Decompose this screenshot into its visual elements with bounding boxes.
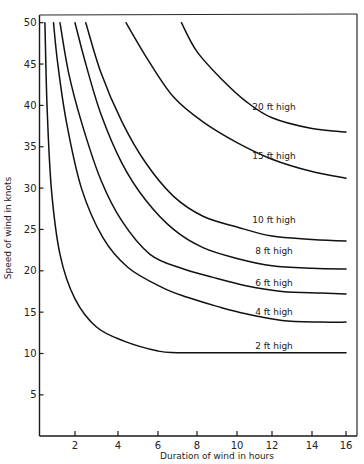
x-axis-title: Duration of wind in hours [160, 451, 274, 461]
y-tick-label: 45 [24, 59, 37, 70]
x-tick-label: 2 [72, 440, 78, 451]
x-tick-label: 6 [155, 440, 161, 451]
curve-label: 2 ft high [255, 341, 293, 351]
x-tick-label: 8 [194, 440, 200, 451]
curve-label: 20 ft high [252, 102, 295, 112]
curve-label: 4 ft high [255, 307, 293, 317]
y-tick-label: 40 [24, 100, 37, 111]
curve-labels: 20 ft high15 ft high10 ft high8 ft high6… [252, 102, 295, 352]
x-tick-label: 16 [340, 440, 353, 451]
y-tick-label: 50 [24, 17, 37, 28]
curve-20-ft-high [181, 23, 346, 132]
curve-6-ft-high [60, 23, 346, 294]
curve-8-ft-high [75, 23, 346, 269]
curve-label: 8 ft high [255, 246, 293, 256]
y-tick-label: 15 [24, 307, 37, 318]
y-tick-label: 30 [24, 183, 37, 194]
y-axis-ticks: 5101520253035404550 [24, 17, 44, 400]
curve-label: 15 ft high [252, 151, 295, 161]
x-tick-label: 14 [306, 440, 319, 451]
curve-2-ft-high [45, 23, 346, 353]
y-tick-label: 35 [24, 141, 37, 152]
plot-frame [40, 14, 358, 436]
x-tick-label: 10 [231, 440, 244, 451]
x-tick-label: 4 [115, 440, 121, 451]
x-tick-label: 12 [266, 440, 279, 451]
y-tick-label: 10 [24, 348, 37, 359]
y-tick-label: 25 [24, 224, 37, 235]
curve-label: 10 ft high [252, 215, 295, 225]
curve-label: 6 ft high [255, 278, 293, 288]
x-axis-ticks: 246810121416 [72, 431, 353, 451]
wave-height-curves [45, 23, 346, 353]
curve-15-ft-high [126, 23, 346, 179]
y-axis-title: Speed of wind in knots [3, 176, 13, 279]
wave-height-chart: 5101520253035404550 246810121416 20 ft h… [0, 0, 364, 464]
y-tick-label: 20 [24, 265, 37, 276]
curve-10-ft-high [86, 23, 346, 241]
top-border [40, 14, 358, 15]
y-tick-label: 5 [30, 389, 36, 400]
